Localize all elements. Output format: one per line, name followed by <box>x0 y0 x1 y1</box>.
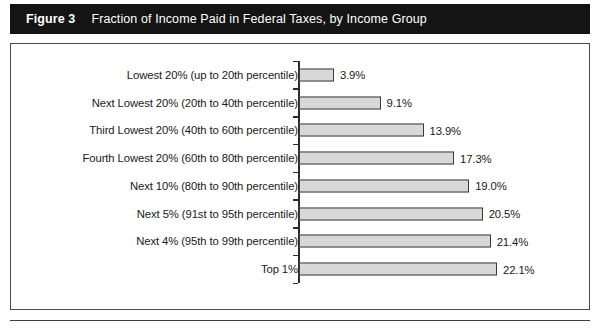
bar-value-label: 13.9% <box>430 124 462 136</box>
category-label: Lowest 20% (up to 20th percentile) <box>127 69 298 81</box>
bar-and-value: 17.3% <box>299 152 492 165</box>
bar-and-value: 9.1% <box>299 96 412 109</box>
bar <box>299 68 334 81</box>
figure-title-text: Fraction of Income Paid in Federal Taxes… <box>91 12 427 26</box>
bar-value-label: 21.4% <box>497 235 529 247</box>
category-label: Next 10% (80th to 90th percentile) <box>130 180 298 192</box>
bar-value-label: 9.1% <box>387 97 412 109</box>
bar-row: Next Lowest 20% (20th to 40th percentile… <box>11 89 591 117</box>
bar <box>299 152 454 165</box>
axis-tick <box>293 199 298 201</box>
bar-and-value: 13.9% <box>299 124 461 137</box>
axis-tick <box>293 116 298 118</box>
bottom-divider-rule <box>10 320 590 321</box>
bar-and-value: 22.1% <box>299 263 535 276</box>
category-label: Top 1% <box>261 263 298 275</box>
chart-frame: Lowest 20% (up to 20th percentile)3.9%Ne… <box>10 43 590 310</box>
bar-value-label: 19.0% <box>475 180 507 192</box>
bar <box>299 124 424 137</box>
axis-tick <box>293 255 298 257</box>
bar <box>299 96 381 109</box>
bar-row: Next 4% (95th to 99th percentile)21.4% <box>11 228 591 256</box>
bar-rows-container: Lowest 20% (up to 20th percentile)3.9%Ne… <box>11 61 591 283</box>
bar <box>299 179 469 192</box>
axis-tick <box>293 283 298 285</box>
category-label: Third Lowest 20% (40th to 60th percentil… <box>89 124 298 136</box>
bar <box>299 235 491 248</box>
bar-row: Next 10% (80th to 90th percentile)19.0% <box>11 172 591 200</box>
bar-row: Fourth Lowest 20% (60th to 80th percenti… <box>11 144 591 172</box>
category-label: Next Lowest 20% (20th to 40th percentile… <box>92 97 298 109</box>
bar-row: Next 5% (91st to 95th percentile)20.5% <box>11 200 591 228</box>
axis-tick <box>293 172 298 174</box>
bar-row: Lowest 20% (up to 20th percentile)3.9% <box>11 61 591 89</box>
figure-title-bar: Figure 3 Fraction of Income Paid in Fede… <box>10 4 590 34</box>
bar <box>299 263 497 276</box>
axis-tick <box>293 227 298 229</box>
axis-tick <box>293 144 298 146</box>
figure-number-label: Figure 3 <box>26 12 75 26</box>
bar-value-label: 22.1% <box>503 263 535 275</box>
bar-value-label: 3.9% <box>340 69 365 81</box>
category-label: Next 4% (95th to 99th percentile) <box>136 235 298 247</box>
bar <box>299 207 483 220</box>
axis-tick <box>293 88 298 90</box>
bar-row: Top 1%22.1% <box>11 255 591 283</box>
bar-and-value: 21.4% <box>299 235 528 248</box>
bar-and-value: 19.0% <box>299 179 507 192</box>
bar-chart-plot-area: Lowest 20% (up to 20th percentile)3.9%Ne… <box>11 44 591 311</box>
bar-value-label: 20.5% <box>489 208 521 220</box>
bar-value-label: 17.3% <box>460 152 492 164</box>
bar-and-value: 3.9% <box>299 68 365 81</box>
bar-row: Third Lowest 20% (40th to 60th percentil… <box>11 117 591 145</box>
bar-and-value: 20.5% <box>299 207 520 220</box>
axis-tick <box>293 61 298 63</box>
category-label: Next 5% (91st to 95th percentile) <box>137 208 298 220</box>
category-label: Fourth Lowest 20% (60th to 80th percenti… <box>83 152 299 164</box>
